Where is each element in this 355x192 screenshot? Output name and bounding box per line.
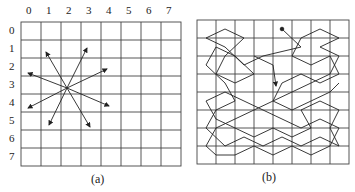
knight-tour-path (206, 27, 339, 155)
diagram-canvas (0, 0, 355, 192)
grid-b (197, 20, 349, 164)
knight-move-arrows (28, 48, 109, 127)
grid-a (21, 22, 181, 166)
